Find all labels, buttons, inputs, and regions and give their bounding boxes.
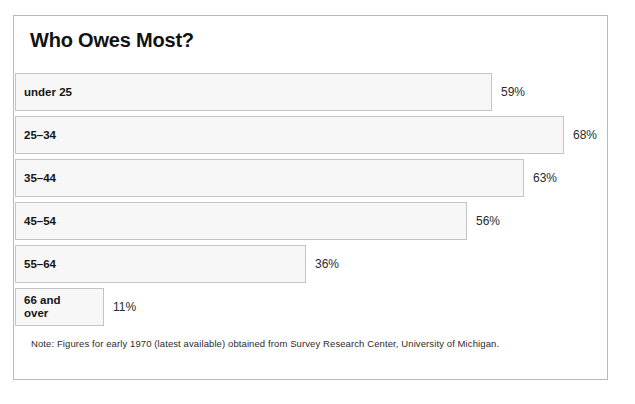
bar-value-label: 59%: [501, 73, 525, 111]
chart-footnote: Note: Figures for early 1970 (latest ava…: [31, 338, 499, 349]
bar-5: 55–64: [15, 245, 306, 283]
bar-chart-plot-area: under 2559%25–3468%35–4463%45–5456%55–64…: [14, 73, 607, 331]
bar-row: 55–6436%: [14, 245, 607, 283]
bar-category-label: 66 and over: [16, 294, 60, 320]
bar-value-label: 63%: [533, 159, 557, 197]
bar-row: 35–4463%: [14, 159, 607, 197]
bar-2: 25–34: [15, 116, 564, 154]
bar-3: 35–44: [15, 159, 524, 197]
bar-6: 66 and over: [15, 288, 104, 326]
bar-value-label: 36%: [315, 245, 339, 283]
bar-row: under 2559%: [14, 73, 607, 111]
chart-panel: Who Owes Most? under 2559%25–3468%35–446…: [13, 15, 608, 380]
bar-4: 45–54: [15, 202, 467, 240]
bar-value-label: 56%: [476, 202, 500, 240]
bar-category-label: 25–34: [16, 129, 56, 142]
bar-value-label: 68%: [573, 116, 597, 154]
bar-row: 25–3468%: [14, 116, 607, 154]
bar-category-label: 35–44: [16, 172, 56, 185]
chart-title: Who Owes Most?: [30, 29, 194, 52]
bar-category-label: 45–54: [16, 215, 56, 228]
bar-1: under 25: [15, 73, 492, 111]
bar-category-label: 55–64: [16, 258, 56, 271]
bar-category-label: under 25: [16, 86, 72, 99]
bar-row: 45–5456%: [14, 202, 607, 240]
bar-row: 66 and over11%: [14, 288, 607, 326]
bar-value-label: 11%: [113, 288, 136, 326]
